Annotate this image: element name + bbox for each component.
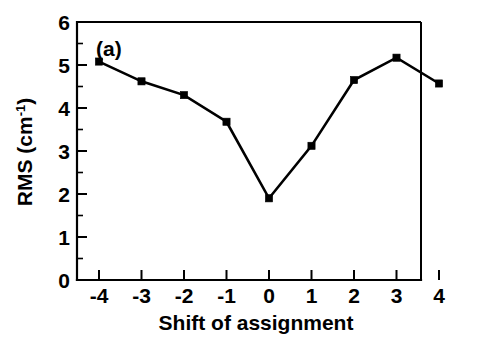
x-tick-label-neg4: -4 [90,284,109,307]
x-tick-label-4: 4 [433,284,445,307]
rms-vs-shift-line-chart: 0 1 2 3 4 5 6 -4 -3 -2 -1 0 1 2 3 4 Shif… [0,0,482,355]
x-tick-label-neg3: -3 [132,284,151,307]
y-tick-label-6: 6 [58,11,70,34]
x-tick-label-2: 2 [348,284,360,307]
y-axis-title: RMS (cm-1) [13,98,36,206]
x-tick-label-neg2: -2 [175,284,194,307]
y-axis-title-base: RMS (cm [13,116,36,206]
x-axis-title: Shift of assignment [159,311,354,334]
y-tick-label-0: 0 [58,269,70,292]
y-axis-major-ticks [77,22,87,280]
figure-panel-a: 0 1 2 3 4 5 6 -4 -3 -2 -1 0 1 2 3 4 Shif… [0,0,482,355]
x-tick-label-3: 3 [391,284,403,307]
series-markers [95,54,442,202]
panel-label-a: (a) [96,37,122,60]
y-tick-label-4: 4 [58,97,70,120]
x-axis-ticks [99,270,439,280]
y-tick-label-2: 2 [58,183,70,206]
y-tick-label-3: 3 [58,140,70,163]
data-point-marker [95,58,102,65]
y-tick-label-5: 5 [58,54,70,77]
series-line-path [99,58,439,199]
svg-text:RMS (cm-1): RMS (cm-1) [13,98,36,206]
x-tick-label-0: 0 [263,284,275,307]
data-series-rms [95,54,442,202]
y-axis-title-close: ) [13,98,36,105]
y-tick-labels: 0 1 2 3 4 5 6 [58,11,70,292]
data-point-marker [350,76,357,83]
plot-frame [77,22,421,280]
y-axis-title-exponent: -1 [13,105,28,117]
data-point-marker [223,118,230,125]
data-point-marker [138,78,145,85]
data-point-marker [180,92,187,99]
x-tick-labels: -4 -3 -2 -1 0 1 2 3 4 [90,284,446,307]
x-tick-label-1: 1 [306,284,318,307]
y-tick-label-1: 1 [58,226,70,249]
data-point-marker [265,195,272,202]
x-tick-label-neg1: -1 [217,284,236,307]
data-point-marker [435,80,442,87]
data-point-marker [308,142,315,149]
data-point-marker [393,54,400,61]
